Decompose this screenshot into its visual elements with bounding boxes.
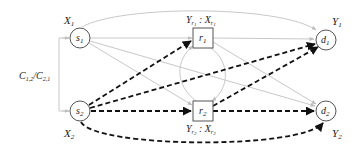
node-d1: d1 <box>316 30 336 50</box>
label-C12-C21: C1,2/C2,1 <box>19 70 50 82</box>
label-Y1: Y1 <box>332 15 342 29</box>
label-X1: X1 <box>63 14 74 28</box>
node-d2: d2 <box>316 101 336 121</box>
edge-r1-d1 <box>213 38 314 39</box>
label-Y2: Y2 <box>332 127 342 141</box>
light-edges <box>59 11 316 111</box>
label-Yr1-Xr1: Yr1 : Xr1 <box>186 14 216 27</box>
node-r2: r2 <box>193 101 213 121</box>
relay-network-diagram: s1 s2 r1 r2 d1 d2 X1 X2 Y1 Y2 Yr1 : Xr1 … <box>0 0 356 150</box>
node-r1: r1 <box>193 28 213 48</box>
label-X2: X2 <box>63 127 75 141</box>
edge-r2-d1 <box>213 47 318 106</box>
edge-r1-d2 <box>213 42 316 104</box>
node-s2: s2 <box>70 101 90 121</box>
edge-s2-d1 <box>90 44 315 108</box>
edge-s1-d2 <box>90 41 315 106</box>
node-s1: s1 <box>70 28 90 48</box>
label-Yr2-Xr2: Yr2 : Xr2 <box>186 123 216 136</box>
edge-r1-r2-curve <box>211 48 225 101</box>
edge-r2-r1-curve <box>180 46 196 101</box>
side-bracket <box>59 38 69 111</box>
